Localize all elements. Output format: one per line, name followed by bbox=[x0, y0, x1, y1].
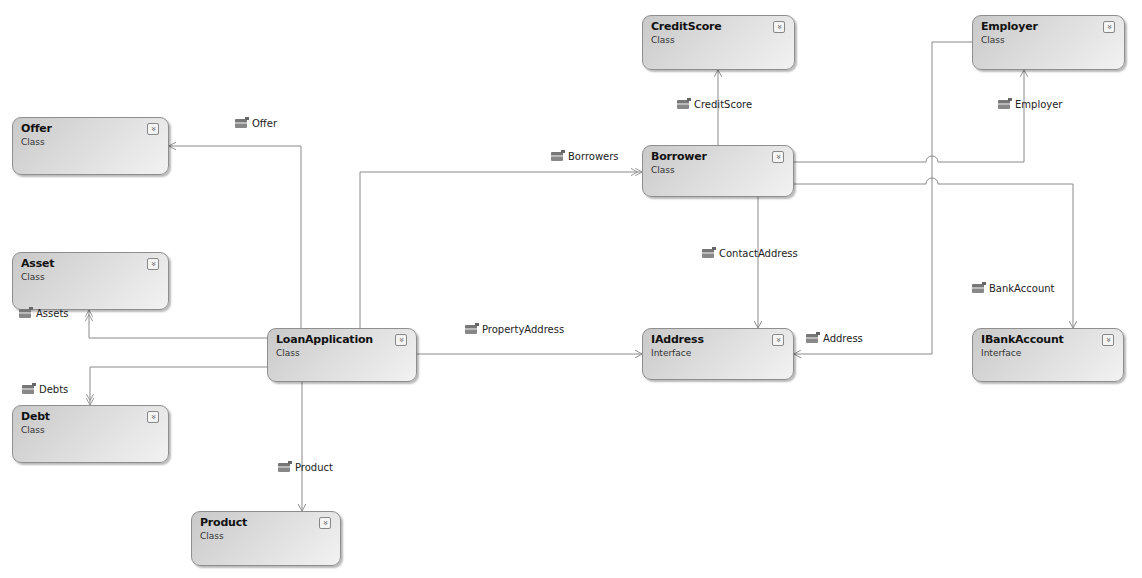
expand-toggle-icon[interactable]: » bbox=[319, 517, 331, 529]
label-text: Debts bbox=[39, 384, 68, 395]
shape-offer[interactable]: Offer Class » bbox=[12, 117, 169, 175]
association-label-offer[interactable]: Offer bbox=[235, 118, 277, 130]
shape-name: IBankAccount bbox=[981, 333, 1115, 347]
expand-toggle-icon[interactable]: » bbox=[147, 123, 159, 135]
shape-debt[interactable]: Debt Class » bbox=[12, 405, 169, 463]
association-offer bbox=[169, 146, 301, 328]
association-label-borrowers[interactable]: Borrowers bbox=[551, 151, 619, 163]
property-icon bbox=[235, 119, 247, 128]
association-assets bbox=[89, 310, 267, 338]
label-text: Employer bbox=[1015, 99, 1063, 110]
label-text: ContactAddress bbox=[719, 248, 798, 259]
shape-name: Asset bbox=[21, 257, 160, 271]
label-text: Assets bbox=[36, 308, 69, 319]
shape-borrower[interactable]: Borrower Class » bbox=[642, 145, 794, 197]
label-text: Borrowers bbox=[568, 151, 619, 162]
shape-creditscore[interactable]: CreditScore Class » bbox=[642, 15, 795, 70]
label-text: Product bbox=[295, 462, 333, 473]
shape-name: Product bbox=[200, 516, 332, 530]
expand-toggle-icon[interactable]: » bbox=[1103, 21, 1115, 33]
shape-product[interactable]: Product Class » bbox=[191, 511, 341, 566]
association-label-debts[interactable]: Debts bbox=[22, 384, 68, 396]
shape-name: Offer bbox=[21, 122, 160, 136]
property-icon bbox=[22, 385, 34, 394]
shape-loanapplication[interactable]: LoanApplication Class » bbox=[267, 328, 417, 382]
association-label-assets[interactable]: Assets bbox=[19, 308, 69, 320]
shape-kind: Interface bbox=[981, 347, 1115, 359]
shape-name: LoanApplication bbox=[276, 333, 408, 347]
association-employer bbox=[794, 70, 1024, 162]
shape-kind: Class bbox=[651, 34, 786, 46]
shape-kind: Class bbox=[981, 34, 1116, 46]
shape-name: CreditScore bbox=[651, 20, 786, 34]
label-text: BankAccount bbox=[989, 283, 1055, 294]
property-icon bbox=[806, 334, 818, 343]
expand-toggle-icon[interactable]: » bbox=[772, 334, 784, 346]
association-address bbox=[794, 42, 972, 354]
expand-toggle-icon[interactable]: » bbox=[147, 411, 159, 423]
label-text: PropertyAddress bbox=[482, 324, 564, 335]
property-icon bbox=[677, 100, 689, 109]
association-label-contactaddress[interactable]: ContactAddress bbox=[702, 248, 798, 260]
label-text: CreditScore bbox=[694, 99, 752, 110]
shape-kind: Class bbox=[276, 347, 408, 359]
shape-kind: Class bbox=[200, 530, 332, 542]
association-label-creditscore[interactable]: CreditScore bbox=[677, 99, 752, 111]
association-debts bbox=[90, 367, 267, 405]
shape-kind: Class bbox=[21, 424, 160, 436]
shape-kind: Class bbox=[21, 136, 160, 148]
association-borrowers bbox=[360, 172, 642, 328]
expand-toggle-icon[interactable]: » bbox=[773, 21, 785, 33]
property-icon bbox=[551, 152, 563, 161]
expand-toggle-icon[interactable]: » bbox=[1102, 334, 1114, 346]
property-icon bbox=[998, 100, 1010, 109]
shape-name: Borrower bbox=[651, 150, 785, 164]
association-label-employer[interactable]: Employer bbox=[998, 99, 1063, 111]
shape-kind: Class bbox=[651, 164, 785, 176]
property-icon bbox=[972, 284, 984, 293]
association-label-product[interactable]: Product bbox=[278, 462, 333, 474]
association-lines bbox=[0, 0, 1142, 578]
association-label-bankaccount[interactable]: BankAccount bbox=[972, 283, 1055, 295]
property-icon bbox=[19, 309, 31, 318]
association-label-address[interactable]: Address bbox=[806, 333, 863, 345]
property-icon bbox=[702, 249, 714, 258]
expand-toggle-icon[interactable]: » bbox=[772, 151, 784, 163]
label-text: Address bbox=[823, 333, 863, 344]
property-icon bbox=[465, 325, 477, 334]
shape-iaddress[interactable]: IAddress Interface » bbox=[642, 328, 794, 380]
label-text: Offer bbox=[252, 118, 277, 129]
expand-toggle-icon[interactable]: » bbox=[147, 258, 159, 270]
association-label-propertyaddress[interactable]: PropertyAddress bbox=[465, 324, 564, 336]
shape-name: IAddress bbox=[651, 333, 785, 347]
shape-ibankaccount[interactable]: IBankAccount Interface » bbox=[972, 328, 1124, 382]
property-icon bbox=[278, 463, 290, 472]
association-bankaccount bbox=[794, 178, 1073, 328]
shape-employer[interactable]: Employer Class » bbox=[972, 15, 1125, 70]
shape-name: Employer bbox=[981, 20, 1116, 34]
class-diagram-canvas[interactable]: Offer Class » Asset Class » Debt Class »… bbox=[0, 0, 1142, 578]
shape-asset[interactable]: Asset Class » bbox=[12, 252, 169, 310]
shape-name: Debt bbox=[21, 410, 160, 424]
shape-kind: Interface bbox=[651, 347, 785, 359]
shape-kind: Class bbox=[21, 271, 160, 283]
expand-toggle-icon[interactable]: » bbox=[395, 334, 407, 346]
